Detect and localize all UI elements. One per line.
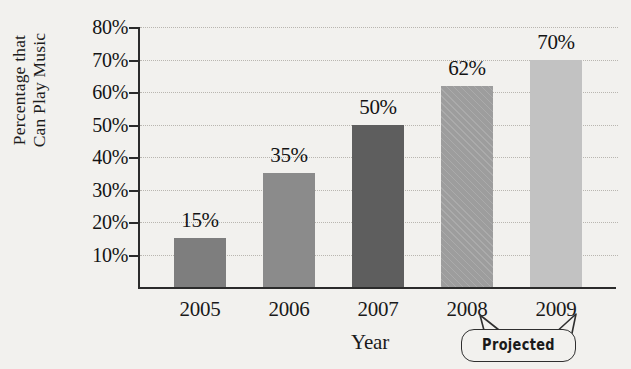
- bar[interactable]: [441, 86, 493, 288]
- x-axis-line: [138, 287, 616, 289]
- y-axis-tick-label: 60%: [66, 82, 128, 102]
- x-axis-tick-label: 2005: [155, 299, 245, 320]
- y-axis-tick-mark: [129, 157, 140, 159]
- y-axis-tick-label: 80%: [66, 17, 128, 37]
- y-axis-tick-label: 20%: [66, 212, 128, 232]
- y-axis-title-line-1: Percentage that: [10, 0, 30, 190]
- bar[interactable]: [263, 173, 315, 287]
- bar-value-label: 50%: [333, 97, 423, 118]
- y-axis-tick-mark: [129, 60, 140, 62]
- gridline: [140, 27, 618, 28]
- y-axis-tick-label: 40%: [66, 147, 128, 167]
- bar-value-label: 70%: [511, 32, 601, 53]
- bar-chart: Percentage that Can Play Music 10%20%30%…: [0, 0, 631, 369]
- bar-value-label: 62%: [422, 58, 512, 79]
- y-axis-tick-label: 30%: [66, 180, 128, 200]
- y-axis-tick-mark: [129, 190, 140, 192]
- projected-callout-label: Projected: [470, 330, 567, 361]
- y-axis-title-line-2: Can Play Music: [30, 0, 50, 190]
- y-axis-tick-mark: [129, 255, 140, 257]
- y-axis-tick-labels: 10%20%30%40%50%60%70%80%: [62, 0, 128, 369]
- x-axis-title: Year: [310, 330, 430, 355]
- y-axis-tick-mark: [129, 92, 140, 94]
- bar[interactable]: [352, 125, 404, 288]
- y-axis-tick-label: 70%: [66, 50, 128, 70]
- bar-hatch-pattern: [441, 86, 493, 288]
- bar-value-label: 15%: [155, 210, 245, 231]
- bar[interactable]: [530, 60, 582, 288]
- x-axis-tick-label: 2007: [333, 299, 423, 320]
- y-axis-tick-mark: [129, 27, 140, 29]
- y-axis-tick-mark: [129, 125, 140, 127]
- x-axis-tick-label: 2006: [244, 299, 334, 320]
- y-axis-title: Percentage that Can Play Music: [10, 0, 70, 190]
- bar[interactable]: [174, 238, 226, 287]
- y-axis-tick-mark: [129, 222, 140, 224]
- bar-value-label: 35%: [244, 145, 334, 166]
- y-axis-tick-label: 50%: [66, 115, 128, 135]
- plot-area: [138, 27, 618, 289]
- projected-callout: Projected: [461, 329, 576, 362]
- y-axis-tick-label: 10%: [66, 245, 128, 265]
